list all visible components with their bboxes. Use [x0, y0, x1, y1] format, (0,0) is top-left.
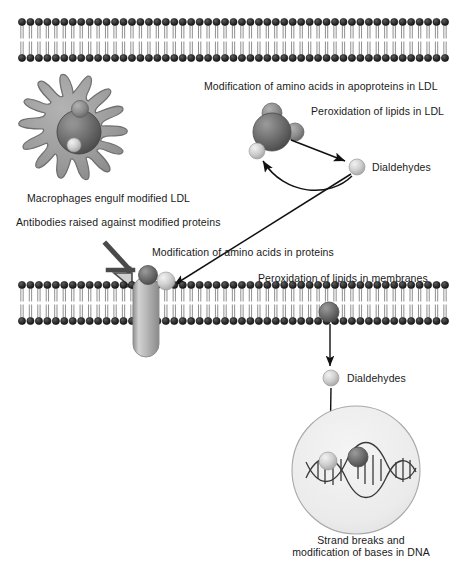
lipid-head: [27, 54, 34, 61]
lipid-head: [315, 18, 322, 25]
lipid-head: [69, 18, 76, 25]
lipid-bilayer-bottom: [18, 281, 448, 324]
arrow-dialdehyde-to-ldl: [263, 161, 352, 190]
lipid-head: [424, 18, 431, 25]
lipid-head: [205, 54, 212, 61]
lipid-head: [120, 281, 127, 288]
lipid-head: [111, 317, 118, 324]
lipid-head: [205, 18, 212, 25]
lipid-head: [416, 54, 423, 61]
lipid-head: [171, 317, 178, 324]
ldl-modified-sphere: [249, 143, 265, 159]
label-modification-proteins: Modification of amino acids in proteins: [152, 246, 334, 258]
lipid-head: [221, 18, 228, 25]
lipid-head: [179, 18, 186, 25]
lipid-head: [399, 317, 406, 324]
lipid-head: [213, 317, 220, 324]
transmembrane-protein: [133, 266, 175, 358]
lipid-head: [120, 317, 127, 324]
lipid-head: [416, 18, 423, 25]
protein-capsule: [133, 277, 159, 357]
lipid-head: [272, 18, 279, 25]
lipid-head: [213, 54, 220, 61]
arrow-dialdehyde-to-membrane-protein: [174, 174, 351, 285]
lipid-head: [289, 54, 296, 61]
lipid-head: [154, 54, 161, 61]
lipid-head: [171, 18, 178, 25]
lipid-head: [374, 18, 381, 25]
lipid-head: [120, 18, 127, 25]
lipid-head: [230, 18, 237, 25]
lipid-head: [247, 54, 254, 61]
lipid-head: [382, 317, 389, 324]
lipid-head: [315, 54, 322, 61]
lipid-head: [238, 18, 245, 25]
lipid-head: [128, 54, 135, 61]
lipid-head: [230, 317, 237, 324]
lipid-head: [44, 18, 51, 25]
lipid-head: [281, 317, 288, 324]
lipid-head: [306, 317, 313, 324]
diagram-canvas: Modification of amino acids in apoprotei…: [0, 0, 458, 568]
lipid-head: [382, 18, 389, 25]
lipid-head: [357, 54, 364, 61]
lipid-head: [255, 18, 262, 25]
lipid-head: [348, 18, 355, 25]
lipid-head: [35, 54, 42, 61]
lipid-head: [213, 18, 220, 25]
lipid-head: [289, 18, 296, 25]
lipid-head: [441, 317, 448, 324]
lipid-head: [365, 18, 372, 25]
lipid-head: [255, 54, 262, 61]
dialdehyde-sphere-top: [349, 159, 365, 175]
lipid-head: [103, 317, 110, 324]
lipid-head: [128, 18, 135, 25]
lipid-head: [298, 54, 305, 61]
lipid-head: [331, 54, 338, 61]
lipid-head: [357, 317, 364, 324]
lipid-head: [424, 317, 431, 324]
antibody-y-shape: [106, 244, 133, 288]
lipid-head: [95, 317, 102, 324]
lipid-head: [69, 281, 76, 288]
lipid-head: [424, 54, 431, 61]
lipid-head: [52, 317, 59, 324]
lipid-head: [340, 54, 347, 61]
lipid-head: [18, 317, 25, 324]
lipid-head: [221, 317, 228, 324]
lipid-head: [179, 54, 186, 61]
lipid-head: [281, 18, 288, 25]
lipid-head: [433, 54, 440, 61]
lipid-head: [221, 281, 228, 288]
lipid-head: [340, 317, 347, 324]
lipid-head: [52, 54, 59, 61]
lipid-head: [365, 54, 372, 61]
lipid-head: [196, 18, 203, 25]
lipid-head: [348, 317, 355, 324]
label-dna-caption-line2: modification of bases in DNA: [286, 546, 436, 558]
lipid-head: [188, 54, 195, 61]
label-dialdehydes-top: Dialdehydes: [372, 161, 431, 173]
lipid-head: [61, 281, 68, 288]
lipid-head: [382, 54, 389, 61]
lipid-head: [238, 317, 245, 324]
lipid-head: [433, 317, 440, 324]
lipid-head: [86, 18, 93, 25]
lipid-head: [331, 18, 338, 25]
label-modification-apoproteins: Modification of amino acids in apoprotei…: [204, 80, 438, 92]
lipid-head: [103, 54, 110, 61]
arrow-ldl-to-dialdehyde: [291, 140, 345, 161]
lipid-head: [78, 54, 85, 61]
lipid-head: [272, 54, 279, 61]
lipid-head: [264, 18, 271, 25]
lipid-head: [162, 54, 169, 61]
lipid-head: [306, 54, 313, 61]
lipid-head: [86, 317, 93, 324]
lipid-head: [247, 317, 254, 324]
lipid-head: [27, 281, 34, 288]
lipid-head: [289, 317, 296, 324]
lipid-head: [230, 54, 237, 61]
lipid-head: [399, 54, 406, 61]
lipid-head: [365, 317, 372, 324]
lipid-head: [306, 18, 313, 25]
